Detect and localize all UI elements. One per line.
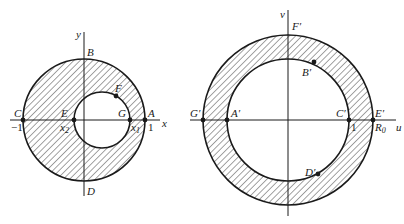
point-f-label: F	[114, 82, 122, 94]
right-u-axis-label: u	[396, 121, 402, 133]
point-b-label: B	[87, 46, 94, 58]
point-e-dot	[72, 118, 77, 123]
point-c-label: C	[14, 107, 22, 119]
point-d-prime-label: D′	[304, 166, 316, 178]
left-y-axis-label: y	[75, 28, 81, 40]
point-c-prime-label: C′	[336, 107, 346, 119]
point-g-label: G	[118, 107, 126, 119]
point-a-prime-label: A′	[230, 107, 241, 119]
point-b-prime-dot	[312, 60, 317, 65]
point-g-prime-label: G′	[190, 107, 201, 119]
point-c-tick: −1	[11, 121, 23, 133]
point-a-dot	[143, 118, 148, 123]
point-f-dot	[114, 94, 119, 99]
point-a-prime-dot	[225, 118, 230, 123]
left-figure: x y A 1 B C −1 D E x2 F G x1	[0, 0, 180, 224]
point-b-prime-label: B′	[302, 66, 312, 78]
point-g-prime-dot	[201, 118, 206, 123]
point-f-prime-label: F′	[291, 20, 302, 32]
point-d-prime-dot	[316, 172, 321, 177]
conformal-map-diagram: x y A 1 B C −1 D E x2 F G x1 u v A′ B′ C…	[0, 0, 404, 224]
right-hatched-region	[180, 0, 404, 224]
point-a-tick: 1	[148, 121, 154, 133]
point-e-label: E	[60, 107, 68, 119]
point-c-prime-tick: 1	[351, 121, 357, 133]
point-a-label: A	[147, 107, 155, 119]
point-d-label: D	[86, 185, 95, 197]
right-figure: u v A′ B′ C′ 1 D′ E′ R0 F′ G′	[180, 0, 404, 224]
left-x-axis-label: x	[161, 117, 167, 129]
point-e-prime-label: E′	[374, 107, 385, 119]
right-v-axis-label: v	[280, 8, 285, 20]
